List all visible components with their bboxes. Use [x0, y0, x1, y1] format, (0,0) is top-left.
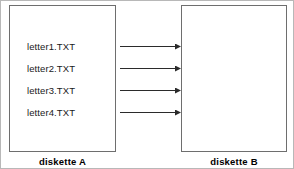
copy-files-diagram: letter1.TXT letter2.TXT letter3.TXT lett…: [0, 0, 294, 169]
destination-diskette-caption: diskette B: [181, 156, 287, 167]
destination-diskette-box: [181, 5, 287, 152]
source-diskette-caption: diskette A: [9, 156, 116, 167]
